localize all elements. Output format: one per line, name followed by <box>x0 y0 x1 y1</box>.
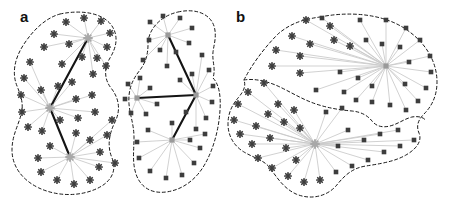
spoke-edge <box>315 144 368 160</box>
graph-node-star <box>21 75 27 81</box>
hub-edge-a-4 <box>172 95 196 140</box>
graph-node-square <box>210 100 215 105</box>
graph-node-star <box>55 83 61 89</box>
graph-node-square <box>146 128 151 133</box>
graph-node-square <box>388 103 393 108</box>
graph-node-star <box>112 160 118 166</box>
graph-node-square <box>370 100 375 105</box>
graph-node-square <box>158 48 163 53</box>
graph-node-square <box>207 68 212 73</box>
graph-node-square <box>192 161 197 166</box>
graph-node-square <box>398 45 403 50</box>
graph-node-square <box>412 138 417 143</box>
graph-node-star <box>231 117 237 123</box>
hub-b-upper <box>383 63 388 68</box>
graph-node-star <box>237 131 243 137</box>
graph-node-square <box>174 50 179 55</box>
graph-node-square <box>129 111 134 116</box>
spoke-edge <box>386 28 406 66</box>
graph-node-square <box>178 78 183 83</box>
graph-node-star <box>269 63 275 69</box>
graph-node-square <box>403 82 408 87</box>
hub-edge-a-1 <box>50 38 88 108</box>
hub-a-right-left <box>134 95 139 100</box>
hub-edge-a-5 <box>137 95 196 98</box>
graph-node-star <box>347 43 353 49</box>
spoke-edge <box>272 144 315 168</box>
graph-node-square <box>356 76 361 81</box>
hub-a-right-top <box>165 32 170 37</box>
graph-node-star <box>35 155 41 161</box>
graph-node-square <box>141 58 146 63</box>
graph-node-star <box>265 111 271 117</box>
spoke-edge <box>24 78 50 108</box>
graph-node-star <box>307 41 313 47</box>
graph-node-square <box>190 72 195 77</box>
graph-node-star <box>109 117 115 123</box>
graph-node-star <box>327 23 333 29</box>
graph-node-square <box>188 138 193 143</box>
spoke-edge <box>300 56 386 66</box>
graph-node-square <box>428 54 433 59</box>
graph-node-star <box>27 59 33 65</box>
graph-node-square <box>364 38 369 43</box>
graph-node-square <box>382 150 387 155</box>
spoke-edge <box>137 140 172 142</box>
graph-node-star <box>317 177 323 183</box>
graph-node-star <box>249 141 255 147</box>
graph-node-star <box>51 31 57 37</box>
graph-node-star <box>297 70 303 76</box>
graph-node-star <box>41 44 47 50</box>
graph-node-square <box>200 53 205 58</box>
graph-node-star <box>47 143 53 149</box>
spoke-edge <box>139 140 172 158</box>
graph-node-star <box>87 137 93 143</box>
graph-node-square <box>384 18 389 23</box>
graph-node-star <box>267 135 273 141</box>
graph-node-star <box>104 132 110 138</box>
graph-node-square <box>135 140 140 145</box>
graph-node-star <box>255 155 261 161</box>
graph-node-star <box>69 79 75 85</box>
graph-node-star <box>97 149 103 155</box>
panel-label-a: a <box>20 8 29 25</box>
graph-node-square <box>164 176 169 181</box>
graph-node-star <box>293 157 299 163</box>
graph-node-square <box>378 132 383 137</box>
graph-node-star <box>297 125 303 131</box>
graph-node-star <box>25 124 31 130</box>
graph-node-square <box>180 173 185 178</box>
graph-node-star <box>253 123 259 129</box>
graph-node-square <box>138 76 143 81</box>
graph-node-square <box>396 128 401 133</box>
graph-node-star <box>275 101 281 107</box>
spoke-edge <box>315 112 326 144</box>
hub-a-left-bottom <box>66 153 74 161</box>
graph-node-star <box>89 92 95 98</box>
graph-node-square <box>204 116 209 121</box>
graph-node-square <box>407 60 412 65</box>
graph-node-star <box>303 17 309 23</box>
graph-node-star <box>107 30 113 36</box>
graph-node-star <box>75 115 81 121</box>
panel-label-b: b <box>236 8 245 25</box>
graph-node-star <box>98 18 104 24</box>
graph-node-star <box>38 169 44 175</box>
graph-node-star <box>92 109 98 115</box>
hub-edge-a-3 <box>168 35 196 95</box>
graph-node-square <box>314 88 319 93</box>
hub-a-right-bottom <box>169 137 174 142</box>
graph-node-star <box>19 109 25 115</box>
spoke-edge <box>386 66 390 105</box>
graph-node-star <box>297 53 303 59</box>
graph-node-square <box>198 146 203 151</box>
hub-edge-a-2 <box>50 108 70 157</box>
graph-node-star <box>281 119 287 125</box>
spoke-edge <box>386 62 409 66</box>
graph-node-star <box>71 181 77 187</box>
graph-node-square <box>334 170 339 175</box>
spoke-edge <box>386 66 431 72</box>
graph-node-square <box>346 128 351 133</box>
graph-node-star <box>57 117 63 123</box>
graph-node-star <box>81 15 87 21</box>
